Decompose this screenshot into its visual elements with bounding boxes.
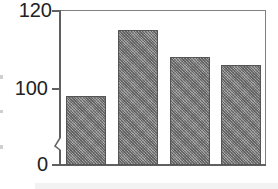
bar-1 — [66, 96, 106, 165]
y-tick-label-100: 100 — [0, 78, 48, 98]
bar-2 — [118, 30, 158, 166]
axis-break-icon — [52, 134, 66, 154]
bar-4 — [221, 65, 261, 165]
y-tick-100 — [52, 88, 59, 90]
y-tick-label-0: 0 — [0, 154, 48, 174]
y-tick-label-120: 120 — [4, 0, 52, 20]
bar-3 — [170, 57, 210, 165]
y-axis-upper — [59, 10, 61, 138]
cropped-label-strip — [35, 183, 278, 189]
y-tick-120 — [52, 10, 59, 12]
cropped-label-fragment — [0, 75, 3, 155]
